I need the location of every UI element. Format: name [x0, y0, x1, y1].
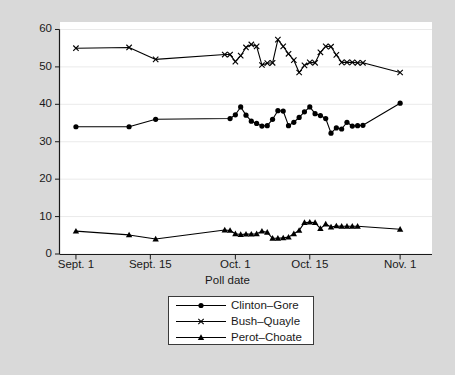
- x-axis-tick-label: Sept. 1: [58, 258, 94, 270]
- y-axis-tick-label: 60: [30, 23, 52, 34]
- data-point-marker: [259, 123, 264, 128]
- data-point-marker: [238, 53, 243, 58]
- data-point-marker: [318, 113, 323, 118]
- chart-figure: 0102030405060 Percent support Sept. 1Sep…: [0, 0, 455, 375]
- y-axis-tick-labels: 0102030405060: [28, 0, 52, 375]
- data-point-marker: [285, 234, 291, 240]
- data-point-marker: [334, 125, 339, 130]
- data-point-marker: [312, 111, 317, 116]
- data-point-marker: [307, 219, 313, 225]
- data-point-marker: [270, 117, 275, 122]
- data-point-marker: [265, 123, 270, 128]
- x-axis-tick-label: Sept. 15: [129, 258, 172, 270]
- data-point-marker: [334, 52, 339, 57]
- data-point-marker: [249, 42, 254, 47]
- chart-legend: Clinton–GoreBush–QuaylePerot–Choate: [168, 296, 314, 345]
- data-point-marker: [275, 108, 280, 113]
- y-axis-tick-label: 20: [30, 173, 52, 184]
- data-point-marker: [259, 228, 265, 234]
- data-point-marker: [238, 104, 243, 109]
- data-point-marker: [323, 116, 328, 121]
- series-3: [73, 219, 404, 241]
- data-point-marker: [344, 120, 349, 125]
- data-point-marker: [232, 231, 238, 237]
- data-point-marker: [323, 221, 329, 227]
- series-2: [73, 37, 403, 75]
- data-point-marker: [318, 50, 323, 55]
- data-point-marker: [286, 123, 291, 128]
- y-axis-tick-label: 30: [30, 136, 52, 147]
- legend-item-2[interactable]: Bush–Quayle: [169, 314, 313, 329]
- data-point-marker: [333, 223, 339, 229]
- data-point-marker: [243, 113, 248, 118]
- series-line: [76, 103, 400, 133]
- data-point-marker: [398, 101, 403, 106]
- x-axis-tick-label: Oct. 15: [291, 258, 328, 270]
- data-point-marker: [350, 123, 355, 128]
- data-point-marker: [254, 121, 259, 126]
- x-axis-tick-label: Nov. 1: [384, 258, 416, 270]
- x-axis-tick-label: Oct. 1: [220, 258, 251, 270]
- legend-marker-cross-icon: [175, 314, 227, 329]
- data-point-marker: [126, 124, 131, 129]
- x-axis-title: Poll date: [0, 274, 455, 286]
- data-point-marker: [297, 115, 302, 120]
- plot-area: [60, 22, 432, 254]
- data-point-marker: [291, 57, 296, 62]
- data-point-marker: [328, 131, 333, 136]
- data-point-marker: [222, 227, 228, 233]
- data-point-marker: [233, 112, 238, 117]
- data-point-marker: [73, 228, 79, 234]
- data-point-marker: [227, 116, 232, 121]
- data-point-marker: [360, 123, 365, 128]
- legend-marker-filled-circle-icon: [175, 298, 227, 313]
- legend-item-1[interactable]: Clinton–Gore: [169, 298, 313, 313]
- y-axis-tick-label: 10: [30, 211, 52, 222]
- y-axis-tick-label: 0: [30, 248, 52, 259]
- data-point-marker: [281, 44, 286, 49]
- y-axis-tick-label: 50: [30, 61, 52, 72]
- data-point-marker: [233, 59, 238, 64]
- data-point-marker: [302, 109, 307, 114]
- series-line: [76, 40, 400, 73]
- series-layer: [73, 37, 404, 242]
- data-point-marker: [296, 70, 301, 75]
- legend-label: Bush–Quayle: [231, 314, 300, 329]
- plot-canvas: [60, 22, 432, 254]
- data-point-marker: [307, 104, 312, 109]
- data-point-marker: [291, 231, 297, 237]
- legend-label: Perot–Choate: [231, 330, 302, 345]
- data-point-marker: [73, 124, 78, 129]
- data-point-marker: [339, 126, 344, 131]
- series-1: [73, 101, 402, 136]
- data-point-marker: [153, 117, 158, 122]
- data-point-marker: [198, 303, 203, 308]
- data-point-marker: [243, 45, 248, 50]
- legend-marker-filled-triangle-icon: [175, 330, 227, 345]
- y-axis-tick-label: 40: [30, 98, 52, 109]
- data-point-marker: [249, 119, 254, 124]
- legend-label: Clinton–Gore: [231, 298, 299, 313]
- data-point-marker: [281, 108, 286, 113]
- gridlines: [60, 29, 432, 254]
- data-point-marker: [291, 120, 296, 125]
- data-point-marker: [355, 123, 360, 128]
- legend-item-3[interactable]: Perot–Choate: [169, 330, 313, 345]
- data-point-marker: [286, 51, 291, 56]
